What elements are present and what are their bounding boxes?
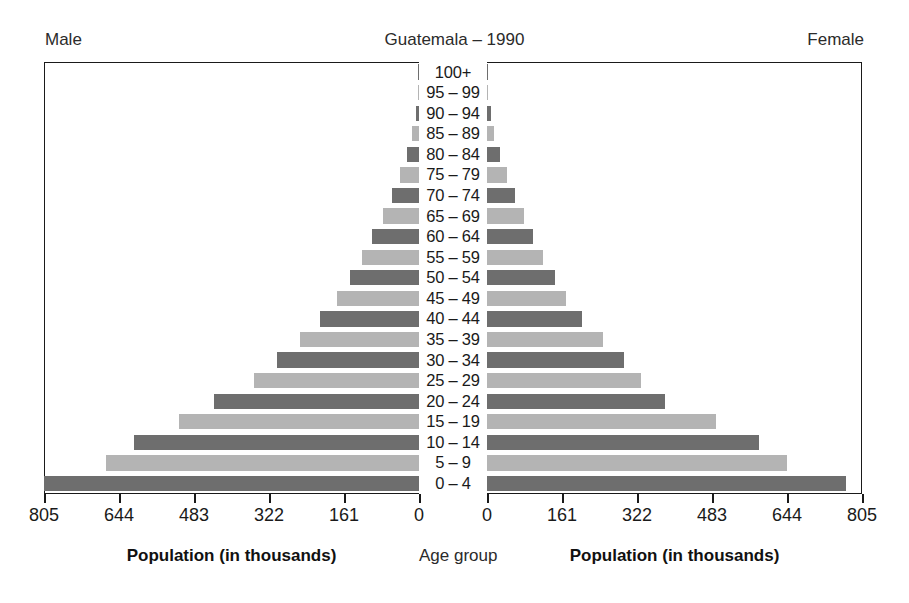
bar-row bbox=[44, 144, 419, 165]
bar-row bbox=[44, 165, 419, 186]
chart-title: Guatemala – 1990 bbox=[0, 30, 909, 50]
bar-female-50–54 bbox=[487, 270, 555, 285]
male-axis-caption: Population (in thousands) bbox=[44, 546, 419, 566]
axis-tick bbox=[787, 494, 789, 503]
bar-female-30–34 bbox=[487, 352, 624, 367]
bar-row bbox=[487, 473, 862, 494]
bar-male-25–29 bbox=[254, 373, 419, 388]
bar-row bbox=[44, 432, 419, 453]
age-group-label: 20 – 24 bbox=[419, 392, 487, 411]
bar-male-55–59 bbox=[362, 250, 419, 265]
bar-row bbox=[44, 453, 419, 474]
axis-tick-label: 161 bbox=[329, 505, 359, 526]
bar-male-5–9 bbox=[106, 455, 419, 470]
bar-male-0–4 bbox=[44, 476, 419, 491]
axis-tick-label: 805 bbox=[29, 505, 59, 526]
bar-male-60–64 bbox=[372, 229, 419, 244]
axis-tick bbox=[862, 494, 864, 503]
bar-row bbox=[487, 268, 862, 289]
age-group-axis: 0 – 45 – 910 – 1415 – 1920 – 2425 – 2930… bbox=[419, 62, 487, 494]
bar-female-80–84 bbox=[487, 147, 500, 162]
bar-row bbox=[44, 124, 419, 145]
population-pyramid-chart: Male Guatemala – 1990 Female 0 – 45 – 91… bbox=[0, 0, 909, 603]
age-group-label: 45 – 49 bbox=[419, 289, 487, 308]
bar-row bbox=[487, 103, 862, 124]
age-group-label: 35 – 39 bbox=[419, 330, 487, 349]
axis-tick bbox=[637, 494, 639, 503]
age-group-label: 50 – 54 bbox=[419, 268, 487, 287]
bar-row bbox=[44, 103, 419, 124]
bar-male-45–49 bbox=[337, 291, 419, 306]
axis-tick bbox=[487, 494, 489, 503]
age-group-label: 10 – 14 bbox=[419, 433, 487, 452]
bar-male-65–69 bbox=[383, 208, 419, 223]
bar-row bbox=[44, 227, 419, 248]
axis-tick-label: 644 bbox=[104, 505, 134, 526]
bar-row bbox=[487, 165, 862, 186]
bar-row bbox=[487, 329, 862, 350]
axis-tick bbox=[44, 494, 46, 503]
age-group-label: 70 – 74 bbox=[419, 186, 487, 205]
axis-tick bbox=[344, 494, 346, 503]
bar-row bbox=[44, 350, 419, 371]
bar-row bbox=[487, 309, 862, 330]
age-group-label: 65 – 69 bbox=[419, 207, 487, 226]
age-group-label: 60 – 64 bbox=[419, 227, 487, 246]
bar-row bbox=[487, 62, 862, 83]
age-group-label: 5 – 9 bbox=[419, 453, 487, 472]
bar-row bbox=[487, 350, 862, 371]
axis-tick-label: 0 bbox=[482, 505, 492, 526]
bar-row bbox=[487, 185, 862, 206]
bar-male-30–34 bbox=[277, 352, 419, 367]
axis-tick-label: 322 bbox=[622, 505, 652, 526]
bar-row bbox=[487, 432, 862, 453]
female-panel-label: Female bbox=[807, 30, 864, 50]
bar-row bbox=[44, 268, 419, 289]
age-group-label: 75 – 79 bbox=[419, 165, 487, 184]
age-group-caption: Age group bbox=[419, 546, 487, 566]
bar-male-15–19 bbox=[179, 414, 419, 429]
bar-row bbox=[487, 391, 862, 412]
age-group-label: 80 – 84 bbox=[419, 145, 487, 164]
age-group-label: 55 – 59 bbox=[419, 248, 487, 267]
bar-male-35–39 bbox=[300, 332, 419, 347]
bar-row bbox=[44, 391, 419, 412]
bar-female-75–79 bbox=[487, 167, 507, 182]
age-group-label: 0 – 4 bbox=[419, 474, 487, 493]
bar-row bbox=[487, 247, 862, 268]
axis-tick bbox=[712, 494, 714, 503]
axis-tick-label: 0 bbox=[414, 505, 424, 526]
bar-row bbox=[44, 473, 419, 494]
bar-male-70–74 bbox=[392, 188, 419, 203]
bar-male-50–54 bbox=[350, 270, 419, 285]
bar-row bbox=[44, 247, 419, 268]
axis-tick-label: 483 bbox=[179, 505, 209, 526]
male-bars bbox=[44, 62, 419, 494]
axis-tick-label: 322 bbox=[254, 505, 284, 526]
bar-row bbox=[487, 144, 862, 165]
bar-row bbox=[44, 206, 419, 227]
bar-female-70–74 bbox=[487, 188, 515, 203]
age-group-label: 30 – 34 bbox=[419, 351, 487, 370]
age-group-label: 100+ bbox=[419, 63, 487, 82]
bar-female-15–19 bbox=[487, 414, 716, 429]
axis-tick bbox=[419, 494, 421, 503]
bar-female-100+ bbox=[487, 64, 488, 79]
axis-tick bbox=[562, 494, 564, 503]
bar-female-85–89 bbox=[487, 126, 494, 141]
axis-tick-label: 644 bbox=[772, 505, 802, 526]
age-group-label: 85 – 89 bbox=[419, 124, 487, 143]
bar-female-20–24 bbox=[487, 394, 665, 409]
bar-row bbox=[487, 453, 862, 474]
bar-row bbox=[44, 185, 419, 206]
bar-male-75–79 bbox=[400, 167, 419, 182]
age-group-label: 90 – 94 bbox=[419, 104, 487, 123]
bar-female-5–9 bbox=[487, 455, 787, 470]
axis-tick-label: 161 bbox=[547, 505, 577, 526]
bar-row bbox=[44, 371, 419, 392]
bar-male-20–24 bbox=[214, 394, 419, 409]
axis-tick-label: 805 bbox=[847, 505, 877, 526]
bar-row bbox=[44, 83, 419, 104]
bar-female-90–94 bbox=[487, 106, 491, 121]
axis-tick bbox=[119, 494, 121, 503]
